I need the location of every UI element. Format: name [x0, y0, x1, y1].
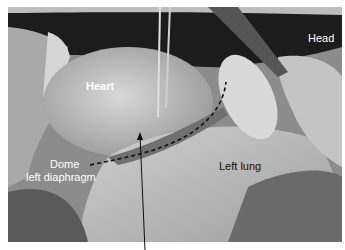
pointer-arrow	[0, 0, 345, 250]
